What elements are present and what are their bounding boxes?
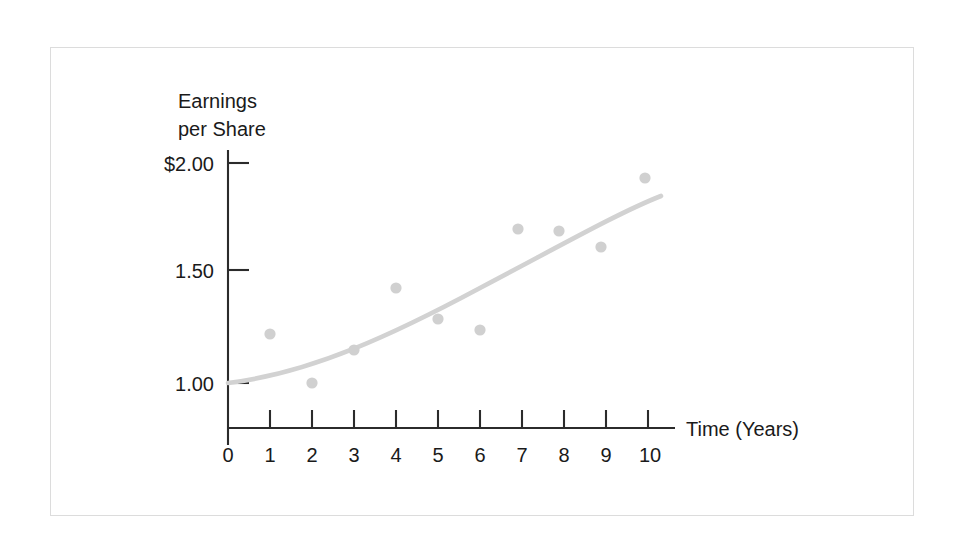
x-tick-label-4: 4 [390, 444, 401, 466]
x-tick-label-8: 8 [558, 444, 569, 466]
figure-root: $2.00 1.50 1.00 Earnings per Share 0 1 2… [0, 0, 958, 559]
data-point [512, 223, 523, 234]
y-axis-title-line-2: per Share [178, 118, 266, 140]
x-tick-label-6: 6 [474, 444, 485, 466]
data-point [348, 344, 359, 355]
data-point [306, 377, 317, 388]
x-tick-label-7: 7 [516, 444, 527, 466]
x-tick-label-5: 5 [432, 444, 443, 466]
x-tick-label-10: 10 [639, 444, 661, 466]
y-tick-label-2-00: $2.00 [164, 153, 214, 175]
data-point [432, 313, 443, 324]
trend-line [228, 196, 661, 383]
x-tick-label-9: 9 [600, 444, 611, 466]
chart-plot-area: $2.00 1.50 1.00 Earnings per Share 0 1 2… [0, 0, 958, 559]
x-tick-label-2: 2 [306, 444, 317, 466]
x-axis-title: Time (Years) [686, 418, 799, 440]
x-tick-label-3: 3 [348, 444, 359, 466]
data-point [553, 225, 564, 236]
data-point [595, 241, 606, 252]
data-point [264, 328, 275, 339]
x-tick-label-0: 0 [222, 444, 233, 466]
data-point [390, 282, 401, 293]
y-axis-title-line-1: Earnings [178, 90, 257, 112]
x-tick-label-1: 1 [264, 444, 275, 466]
data-point [474, 324, 485, 335]
y-tick-label-1-50: 1.50 [175, 260, 214, 282]
data-point [639, 172, 650, 183]
y-tick-label-1-00: 1.00 [175, 373, 214, 395]
